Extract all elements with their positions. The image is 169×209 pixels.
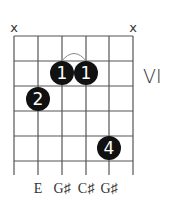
finger-dot: 1 (74, 61, 98, 85)
muted-string-marker: x (129, 20, 137, 35)
svg-text:1: 1 (81, 63, 92, 83)
svg-text:1: 1 (57, 63, 68, 83)
finger-dot: 2 (26, 87, 50, 111)
finger-dot: 1 (50, 61, 74, 85)
chord-diagram: x x 1 1 2 4 VI E G♯ C♯ G♯ (0, 0, 169, 209)
note-label: G♯ (100, 181, 118, 196)
fret-position-label: VI (143, 65, 162, 87)
svg-text:2: 2 (33, 89, 44, 109)
muted-string-marker: x (10, 20, 18, 35)
finger-dot: 4 (97, 136, 121, 160)
note-label: G♯ (53, 181, 71, 196)
svg-text:4: 4 (104, 138, 115, 158)
note-label: C♯ (78, 181, 95, 196)
note-label: E (34, 181, 43, 196)
